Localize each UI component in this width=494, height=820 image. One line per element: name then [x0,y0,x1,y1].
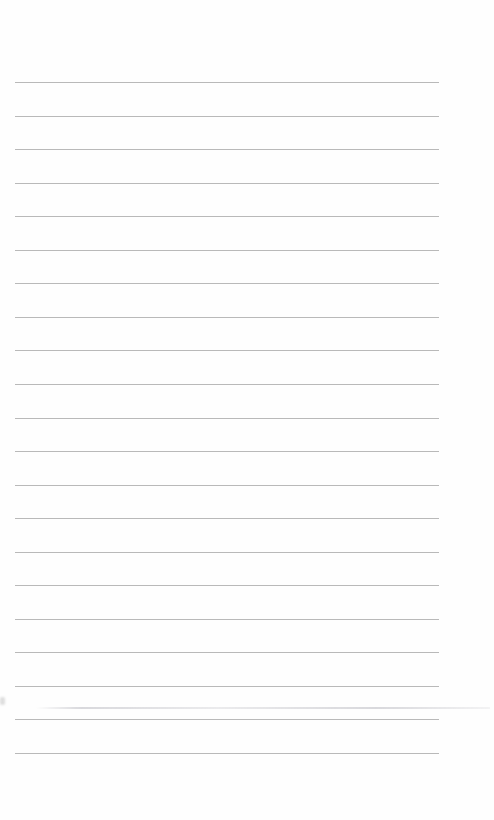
bleed-through-streak [36,707,490,709]
ruled-line [15,585,439,586]
ruled-line [15,350,439,351]
ruled-line [15,652,439,653]
ruled-line [15,418,439,419]
ruled-line [15,82,439,83]
ruled-line [15,183,439,184]
ruled-line [15,384,439,385]
ruled-line [15,686,439,687]
edge-smudge [0,697,5,705]
ruled-line [15,485,439,486]
ruled-line [15,283,439,284]
ruled-line [15,451,439,452]
lined-paper-page [0,0,494,820]
ruled-line [15,149,439,150]
ruled-line [15,216,439,217]
ruled-line [15,619,439,620]
ruled-line [15,552,439,553]
ruled-line [15,250,439,251]
ruled-line [15,753,439,754]
ruled-line [15,317,439,318]
ruled-line [15,116,439,117]
ruled-line [15,518,439,519]
ruled-line [15,719,439,720]
